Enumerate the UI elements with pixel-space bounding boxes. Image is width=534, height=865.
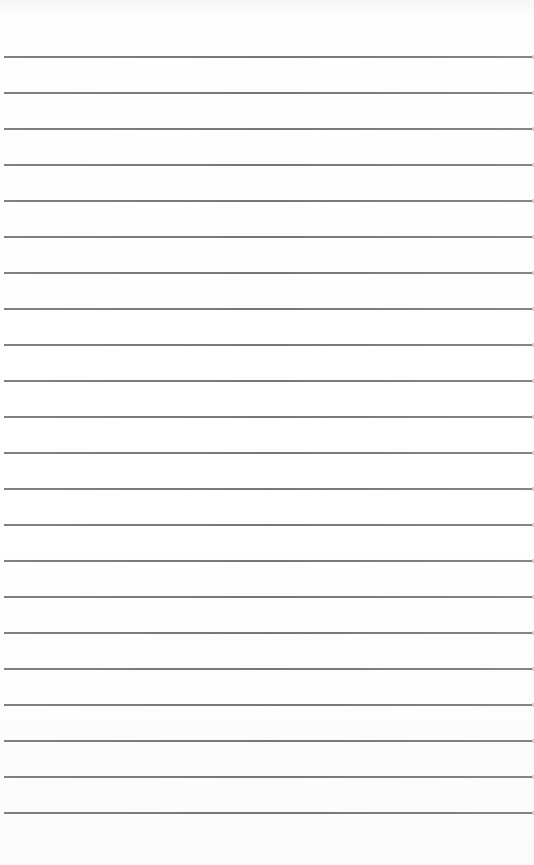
ruled-line	[4, 236, 534, 238]
ruled-line	[4, 56, 534, 58]
ruled-line	[4, 92, 534, 94]
ruled-line	[4, 452, 534, 454]
ruled-line	[4, 704, 534, 706]
ruled-line	[4, 488, 534, 490]
ruled-line	[4, 560, 534, 562]
ruled-line	[4, 596, 534, 598]
ruled-line	[4, 740, 534, 742]
ruled-line	[4, 308, 534, 310]
ruled-line	[4, 668, 534, 670]
ruled-line	[4, 632, 534, 634]
ruled-line	[4, 200, 534, 202]
ruled-line	[4, 776, 534, 778]
lined-paper	[0, 0, 534, 865]
ruled-line	[4, 380, 534, 382]
ruled-line	[4, 524, 534, 526]
ruled-line	[4, 272, 534, 274]
ruled-line	[4, 128, 534, 130]
ruled-line	[4, 416, 534, 418]
ruled-line	[4, 344, 534, 346]
ruled-line	[4, 164, 534, 166]
ruled-line	[4, 812, 534, 814]
